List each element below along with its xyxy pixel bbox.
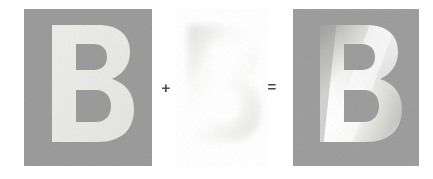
- letter-b-flat: [24, 9, 152, 166]
- flat-letter-panel: [24, 9, 152, 166]
- composition-figure: +: [0, 0, 433, 179]
- shading-layer-panel: [176, 9, 268, 166]
- letter-b-shading: [176, 9, 268, 166]
- shaded-letter-panel: [293, 9, 419, 166]
- plus-operator: +: [158, 80, 174, 96]
- letter-b-shaded: [293, 9, 419, 166]
- equals-operator: =: [264, 79, 280, 95]
